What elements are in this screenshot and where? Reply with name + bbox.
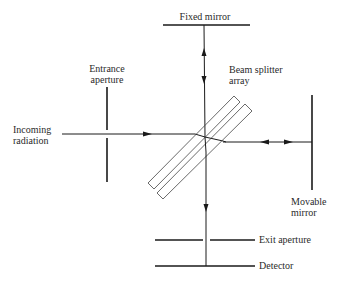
label-movable-mirror: Movable mirror — [291, 196, 327, 218]
label-entrance-line1: Entrance — [84, 63, 130, 74]
arrow-right-icon — [143, 132, 152, 137]
arrow-left-icon — [260, 140, 269, 145]
label-detector: Detector — [259, 260, 293, 271]
label-beam-splitter-line1: Beam splitter — [229, 64, 283, 75]
arrow-right-icon — [284, 140, 293, 145]
label-entrance-line2: aperture — [84, 74, 130, 85]
label-incoming-radiation: Incoming radiation — [13, 124, 51, 146]
arrow-down-icon — [204, 204, 209, 212]
label-beam-splitter-line2: array — [229, 75, 283, 86]
label-movable-line2: mirror — [291, 207, 327, 218]
label-entrance-aperture: Entrance aperture — [84, 63, 130, 85]
arrow-down-icon — [202, 76, 207, 84]
label-incoming-line2: radiation — [13, 135, 51, 146]
arrow-up-icon — [202, 48, 207, 56]
label-movable-line1: Movable — [291, 196, 327, 207]
label-incoming-line1: Incoming — [13, 124, 51, 135]
label-exit-aperture: Exit aperture — [259, 234, 311, 245]
label-beam-splitter: Beam splitter array — [229, 64, 283, 86]
beam-output — [205, 137, 206, 266]
label-fixed-mirror: Fixed mirror — [175, 11, 235, 22]
